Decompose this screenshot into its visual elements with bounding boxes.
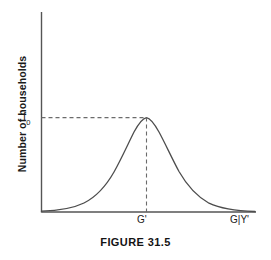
distribution-curve (42, 118, 256, 212)
figure-caption: FIGURE 31.5 (0, 236, 271, 248)
y-tick-label-f0-subscript: 0 (26, 118, 30, 127)
y-tick-label-f0: f0 (23, 110, 30, 125)
figure-container: Number of households f0 G' G|Y' FIGURE 3… (0, 0, 271, 260)
x-tick-label-axis-end: G|Y' (230, 214, 249, 225)
x-tick-label-mode: G' (137, 214, 147, 225)
